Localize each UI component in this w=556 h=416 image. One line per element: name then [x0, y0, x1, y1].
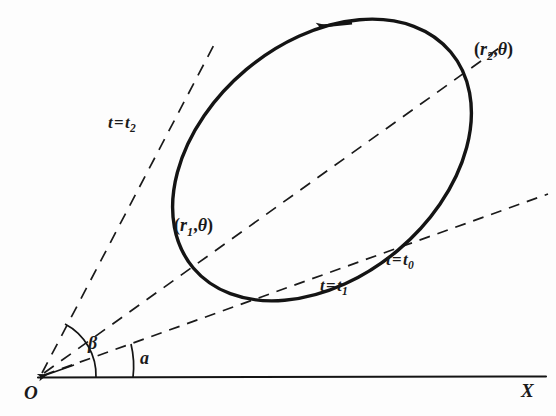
- alpha-angle-arc: [131, 344, 134, 378]
- orbit-diagram-svg: [0, 0, 556, 416]
- label-alpha: a: [140, 349, 149, 367]
- figure-root: t=t2 (r2,θ) (r1,θ) t=t0 t=t1 β a O X: [0, 0, 556, 416]
- label-r2-theta: (r2,θ): [474, 40, 513, 62]
- x-axis: [38, 377, 546, 378]
- label-x-axis: X: [521, 381, 534, 400]
- theta-ray: [44, 46, 502, 373]
- label-t1-text: t=t1: [320, 276, 348, 295]
- label-t0-text: t=t0: [386, 250, 414, 269]
- direction-arrow: [322, 23, 352, 26]
- label-r1-theta: (r1,θ): [174, 216, 213, 238]
- label-t-equals-t2: t=t2: [108, 114, 136, 135]
- label-beta: β: [88, 334, 97, 352]
- orbit-ellipse: [117, 0, 526, 358]
- label-t2-text: t=t2: [108, 113, 136, 132]
- label-t-equals-t0: t=t0: [386, 251, 414, 272]
- label-origin: O: [24, 383, 38, 402]
- label-t-equals-t1: t=t1: [320, 277, 348, 298]
- alpha-ray: [44, 194, 548, 375]
